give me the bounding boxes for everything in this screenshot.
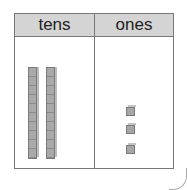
ten-rod-block [28,67,37,159]
ones-header: ones [95,14,173,37]
unit-cube-block [126,125,135,134]
unit-cube-block [126,107,135,116]
unit-cube-block [126,145,135,154]
page-corner-decoration [169,168,187,190]
column-divider [94,14,95,168]
place-value-chart: tens ones [14,13,174,169]
tens-header: tens [15,14,95,37]
ten-rod-block [46,67,55,159]
